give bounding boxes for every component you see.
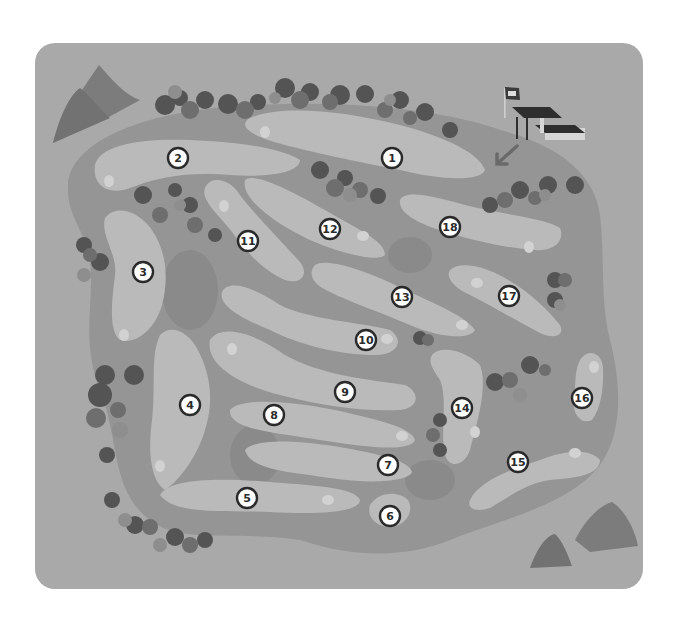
hole-number-label: 11 (240, 235, 255, 248)
hole-marker-12[interactable]: 12 (320, 219, 340, 239)
hole-number-label: 7 (384, 459, 392, 472)
hole-marker-3[interactable]: 3 (133, 262, 153, 282)
hole-number-label: 12 (322, 223, 337, 236)
hole-number-label: 13 (394, 291, 409, 304)
hole-number-label: 6 (386, 510, 394, 523)
hole-number-label: 16 (574, 392, 590, 405)
hole-number-label: 4 (186, 399, 194, 412)
hole-number-label: 1 (388, 152, 396, 165)
hole-marker-18[interactable]: 18 (440, 217, 460, 237)
hole-marker-2[interactable]: 2 (168, 148, 188, 168)
hole-marker-6[interactable]: 6 (380, 506, 400, 526)
hole-marker-13[interactable]: 13 (392, 287, 412, 307)
hole-number-label: 15 (510, 456, 525, 469)
hole-marker-8[interactable]: 8 (264, 405, 284, 425)
hole-number-label: 3 (139, 266, 147, 279)
hole-number-label: 9 (341, 386, 349, 399)
hole-marker-10[interactable]: 10 (356, 330, 376, 350)
hole-number-label: 2 (174, 152, 182, 165)
hole-marker-15[interactable]: 15 (508, 452, 528, 472)
golf-course-map: 123456789101112131415161718 (0, 0, 678, 623)
hole-number-label: 10 (358, 334, 374, 347)
hole-number-label: 14 (454, 402, 470, 415)
hole-number-label: 5 (243, 492, 251, 505)
hole-marker-16[interactable]: 16 (572, 388, 592, 408)
hole-number-label: 8 (270, 409, 278, 422)
hole-marker-4[interactable]: 4 (180, 395, 200, 415)
hole-number-label: 17 (501, 290, 516, 303)
hole-number-label: 18 (442, 221, 457, 234)
hole-marker-11[interactable]: 11 (238, 231, 258, 251)
hole-marker-7[interactable]: 7 (378, 455, 398, 475)
hole-marker-17[interactable]: 17 (499, 286, 519, 306)
hole-marker-14[interactable]: 14 (452, 398, 472, 418)
hole-marker-5[interactable]: 5 (237, 488, 257, 508)
hole-marker-9[interactable]: 9 (335, 382, 355, 402)
hole-marker-1[interactable]: 1 (382, 148, 402, 168)
